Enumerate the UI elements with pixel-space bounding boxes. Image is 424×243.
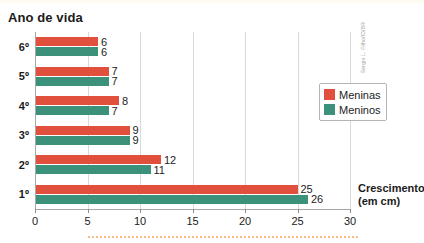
bar-meninas-4º[interactable] bbox=[35, 96, 119, 105]
bar-value-meninos-3º: 9 bbox=[133, 134, 139, 146]
gridline-x-15 bbox=[193, 32, 194, 209]
bar-meninas-1º[interactable] bbox=[35, 185, 298, 194]
legend-swatch-meninas bbox=[324, 89, 335, 100]
x-tick-label-25: 25 bbox=[291, 215, 303, 227]
x-tick-mark-0 bbox=[35, 209, 36, 213]
image-credit: Sergio L. Filho/ID/BR bbox=[360, 22, 366, 73]
bar-meninos-5º[interactable] bbox=[35, 77, 109, 86]
y-category-label-4: 4º bbox=[19, 100, 29, 112]
bar-value-meninos-2º: 11 bbox=[154, 164, 165, 176]
x-tick-mark-30 bbox=[350, 209, 351, 213]
y-category-label-5: 5º bbox=[19, 70, 29, 82]
chart-figure: Ano de vida 6º665º774º873º992º12111º2526… bbox=[0, 0, 424, 243]
bar-meninas-6º[interactable] bbox=[35, 37, 98, 46]
legend-label-meninos: Meninos bbox=[339, 104, 381, 116]
bar-meninos-1º[interactable] bbox=[35, 195, 308, 204]
x-tick-label-15: 15 bbox=[186, 215, 198, 227]
bar-meninas-2º[interactable] bbox=[35, 155, 161, 164]
legend-item-meninos[interactable]: Meninos bbox=[324, 102, 381, 117]
y-category-label-1: 1º bbox=[19, 188, 29, 200]
legend-swatch-meninos bbox=[324, 104, 335, 115]
bar-meninos-4º[interactable] bbox=[35, 106, 109, 115]
plot-area: 6º665º774º873º992º12111º2526 bbox=[35, 32, 350, 209]
x-axis-title-line1: Crescimento bbox=[358, 182, 424, 195]
bottom-dotted-rule bbox=[88, 236, 358, 238]
chart-title: Ano de vida bbox=[8, 10, 83, 25]
bar-value-meninos-4º: 7 bbox=[112, 105, 118, 117]
x-tick-label-20: 20 bbox=[239, 215, 251, 227]
x-axis-title: Crescimento (em cm) bbox=[358, 182, 424, 208]
x-tick-mark-15 bbox=[193, 209, 194, 213]
legend-label-meninas: Meninas bbox=[339, 89, 381, 101]
bar-meninos-3º[interactable] bbox=[35, 136, 130, 145]
bar-value-meninos-6º: 6 bbox=[101, 46, 107, 58]
gridline-x-25 bbox=[298, 32, 299, 209]
bar-value-meninos-5º: 7 bbox=[112, 75, 118, 87]
page-top-band bbox=[0, 0, 424, 5]
gridline-x-10 bbox=[140, 32, 141, 209]
y-category-label-6: 6º bbox=[19, 41, 29, 53]
x-tick-mark-5 bbox=[88, 209, 89, 213]
bar-meninas-5º[interactable] bbox=[35, 67, 109, 76]
x-tick-mark-25 bbox=[298, 209, 299, 213]
y-category-label-3: 3º bbox=[19, 129, 29, 141]
y-axis-line bbox=[35, 32, 36, 209]
y-category-label-2: 2º bbox=[19, 159, 29, 171]
x-tick-label-5: 5 bbox=[84, 215, 90, 227]
bar-meninos-6º[interactable] bbox=[35, 47, 98, 56]
x-tick-label-30: 30 bbox=[344, 215, 356, 227]
x-tick-mark-20 bbox=[245, 209, 246, 213]
x-tick-label-0: 0 bbox=[32, 215, 38, 227]
legend-item-meninas[interactable]: Meninas bbox=[324, 87, 381, 102]
bar-value-meninos-1º: 26 bbox=[311, 193, 323, 205]
bar-value-meninas-2º: 12 bbox=[164, 154, 176, 166]
gridline-x-20 bbox=[245, 32, 246, 209]
x-tick-mark-10 bbox=[140, 209, 141, 213]
x-tick-label-10: 10 bbox=[134, 215, 146, 227]
bar-meninos-2º[interactable] bbox=[35, 165, 151, 174]
gridline-x-5 bbox=[88, 32, 89, 209]
x-axis-title-line2: (em cm) bbox=[358, 195, 424, 208]
bar-meninas-3º[interactable] bbox=[35, 126, 130, 135]
chart-legend[interactable]: Meninas Meninos bbox=[319, 83, 387, 121]
bar-value-meninas-4º: 8 bbox=[122, 95, 128, 107]
